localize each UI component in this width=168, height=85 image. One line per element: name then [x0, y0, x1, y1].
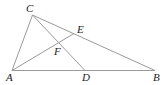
segment-AC [12, 15, 33, 71]
label-C: C [26, 2, 34, 14]
segment-AE [12, 34, 74, 71]
segment-CB [33, 15, 156, 71]
geometry-diagram: C E F A D B [0, 0, 168, 85]
label-A: A [5, 71, 13, 83]
label-E: E [76, 23, 84, 35]
label-F: F [53, 45, 61, 57]
label-D: D [81, 71, 90, 83]
label-B: B [153, 71, 160, 83]
